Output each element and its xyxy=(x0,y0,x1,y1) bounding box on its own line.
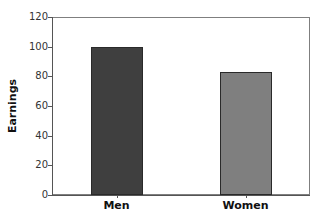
y-axis-label: Earnings xyxy=(6,79,19,133)
x-axis-line xyxy=(52,195,310,196)
y-tick-label: 120 xyxy=(29,12,48,22)
bar-men xyxy=(91,47,143,195)
bar-women xyxy=(220,72,272,195)
x-tick-label: Men xyxy=(77,199,157,212)
x-tick xyxy=(117,195,118,198)
y-tick-label: 0 xyxy=(42,190,48,200)
y-tick-label: 100 xyxy=(29,42,48,52)
y-tick-label: 40 xyxy=(35,131,48,141)
x-tick-label: Women xyxy=(206,199,286,212)
x-tick xyxy=(246,195,247,198)
y-tick-label: 80 xyxy=(35,71,48,81)
y-tick-label: 60 xyxy=(35,101,48,111)
y-axis-line xyxy=(52,17,53,195)
y-tick-label: 20 xyxy=(35,160,48,170)
